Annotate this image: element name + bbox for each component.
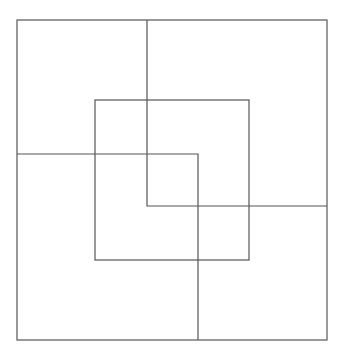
diagram-canvas <box>0 0 349 361</box>
diagram-background <box>0 0 349 361</box>
nested-squares-diagram <box>0 0 349 361</box>
